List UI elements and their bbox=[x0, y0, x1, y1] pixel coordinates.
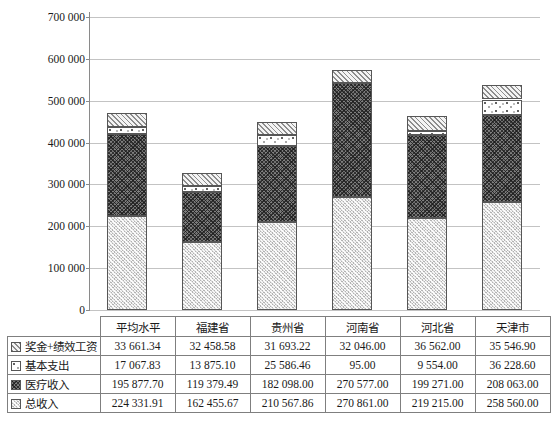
stacked-bar-chart-with-table: 0100 000200 000300 000400 000500 000600 … bbox=[0, 0, 551, 424]
bar-segment-diagonal-hatch bbox=[482, 85, 522, 100]
table-value-cell: 119 379.49 bbox=[175, 375, 250, 394]
y-axis bbox=[89, 12, 90, 311]
table-value-cell: 36 562.00 bbox=[400, 337, 475, 356]
table-value-cell: 258 560.00 bbox=[475, 394, 550, 413]
legend-swatch-icon bbox=[11, 342, 21, 352]
y-axis-tick-label: 100 000 bbox=[5, 262, 85, 274]
table-value-cell: 199 271.00 bbox=[400, 375, 475, 394]
table-header-cell: 河南省 bbox=[325, 317, 400, 337]
bar-segment-light-stipple bbox=[332, 197, 372, 310]
bar-segment-white-dots bbox=[482, 100, 522, 115]
legend-label: 总收入 bbox=[25, 398, 58, 410]
y-gridline bbox=[90, 184, 540, 185]
bar-segment-dark-weave bbox=[257, 146, 297, 222]
legend-cell: 基本支出 bbox=[8, 356, 101, 375]
table-value-cell: 32 458.58 bbox=[175, 337, 250, 356]
legend-label: 奖金+绩效工资 bbox=[25, 341, 98, 353]
table-header-cell: 平均水平 bbox=[100, 317, 175, 337]
y-axis-tick-label: 200 000 bbox=[5, 220, 85, 232]
legend-label: 基本支出 bbox=[25, 360, 69, 372]
y-gridline bbox=[90, 101, 540, 102]
legend-swatch-icon bbox=[11, 380, 21, 390]
table-header-row: 平均水平福建省贵州省河南省河北省天津市 bbox=[8, 317, 551, 337]
bar-segment-dark-weave bbox=[107, 134, 147, 216]
bar-segment-diagonal-hatch bbox=[332, 70, 372, 83]
bar-segment-white-dots bbox=[407, 131, 447, 135]
bar-segment-dark-weave bbox=[182, 192, 222, 242]
table-value-cell: 162 455.67 bbox=[175, 394, 250, 413]
y-gridline bbox=[90, 226, 540, 227]
table-value-cell: 25 586.46 bbox=[250, 356, 325, 375]
legend-cell: 奖金+绩效工资 bbox=[8, 337, 101, 356]
y-axis-tick-label: 500 000 bbox=[5, 95, 85, 107]
table-value-cell: 17 067.83 bbox=[100, 356, 175, 375]
bar-segment-diagonal-hatch bbox=[182, 173, 222, 187]
y-axis-tick-label: 700 000 bbox=[5, 11, 85, 23]
table-value-cell: 95.00 bbox=[325, 356, 400, 375]
bar-segment-diagonal-hatch bbox=[107, 113, 147, 127]
table-header-cell: 福建省 bbox=[175, 317, 250, 337]
table-header-cell: 天津市 bbox=[475, 317, 550, 337]
bar-segment-light-stipple bbox=[407, 218, 447, 310]
table-value-cell: 13 875.10 bbox=[175, 356, 250, 375]
table-value-cell: 195 877.70 bbox=[100, 375, 175, 394]
table-value-cell: 219 215.00 bbox=[400, 394, 475, 413]
table-value-cell: 270 577.00 bbox=[325, 375, 400, 394]
table-header-cell: 贵州省 bbox=[250, 317, 325, 337]
table-row: 基本支出17 067.8313 875.1025 586.4695.009 55… bbox=[8, 356, 551, 375]
y-axis-tick-label: 400 000 bbox=[5, 137, 85, 149]
legend-label: 医疗收入 bbox=[25, 379, 69, 391]
table-value-cell: 32 046.00 bbox=[325, 337, 400, 356]
bar-segment-dark-weave bbox=[332, 83, 372, 196]
bar-segment-dark-weave bbox=[407, 135, 447, 218]
y-gridline bbox=[90, 59, 540, 60]
legend-cell: 医疗收入 bbox=[8, 375, 101, 394]
table-corner-empty bbox=[8, 317, 101, 337]
table-value-cell: 182 098.00 bbox=[250, 375, 325, 394]
bar-segment-white-dots bbox=[182, 186, 222, 192]
table-value-cell: 210 567.86 bbox=[250, 394, 325, 413]
table-value-cell: 224 331.91 bbox=[100, 394, 175, 413]
bar-segment-light-stipple bbox=[182, 242, 222, 310]
data-table: 平均水平福建省贵州省河南省河北省天津市奖金+绩效工资33 661.3432 45… bbox=[7, 316, 551, 413]
bar-segment-dark-weave bbox=[482, 115, 522, 202]
bar-segment-white-dots bbox=[107, 127, 147, 134]
bar-segment-white-dots bbox=[257, 135, 297, 146]
y-gridline bbox=[90, 268, 540, 269]
legend-cell: 总收入 bbox=[8, 394, 101, 413]
legend-swatch-icon bbox=[11, 399, 21, 409]
bar-segment-light-stipple bbox=[482, 202, 522, 310]
bar-segment-light-stipple bbox=[107, 216, 147, 310]
bar-segment-diagonal-hatch bbox=[257, 122, 297, 135]
table-row: 总收入224 331.91162 455.67210 567.86270 861… bbox=[8, 394, 551, 413]
legend-swatch-icon bbox=[11, 361, 21, 371]
y-axis-tick-label: 300 000 bbox=[5, 178, 85, 190]
bar-segment-diagonal-hatch bbox=[407, 116, 447, 131]
table-value-cell: 36 228.60 bbox=[475, 356, 550, 375]
table-value-cell: 270 861.00 bbox=[325, 394, 400, 413]
table-value-cell: 9 554.00 bbox=[400, 356, 475, 375]
table-header-cell: 河北省 bbox=[400, 317, 475, 337]
y-gridline bbox=[90, 17, 540, 18]
table-value-cell: 35 546.90 bbox=[475, 337, 550, 356]
table-row: 医疗收入195 877.70119 379.49182 098.00270 57… bbox=[8, 375, 551, 394]
y-gridline bbox=[90, 143, 540, 144]
table-value-cell: 33 661.34 bbox=[100, 337, 175, 356]
table-value-cell: 31 693.22 bbox=[250, 337, 325, 356]
table-row: 奖金+绩效工资33 661.3432 458.5831 693.2232 046… bbox=[8, 337, 551, 356]
y-axis-tick-label: 600 000 bbox=[5, 53, 85, 65]
y-gridline bbox=[90, 310, 540, 311]
bar-segment-light-stipple bbox=[257, 222, 297, 310]
table-value-cell: 208 063.00 bbox=[475, 375, 550, 394]
y-axis-tick-label: 0 bbox=[5, 304, 85, 316]
